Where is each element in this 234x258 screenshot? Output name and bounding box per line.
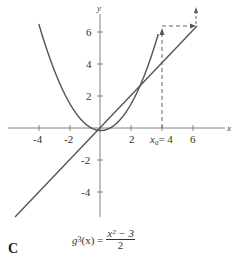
x-axis-label: x: [226, 123, 231, 133]
formula-arg: (x) =: [82, 234, 104, 246]
x-tick-label: 2: [129, 133, 135, 145]
x-tick-label: -4: [33, 133, 43, 145]
x-tick-label: 6: [190, 133, 196, 145]
y-tick-label: 6: [86, 26, 92, 38]
y-tick-label: 2: [86, 90, 92, 102]
parabola-curve: [39, 24, 159, 131]
arrowhead-up-icon: [160, 28, 165, 35]
function-formula: g3(x) = x² − 3 2: [72, 228, 135, 251]
panel-label: C: [8, 241, 18, 257]
y-tick-label: 4: [86, 58, 92, 70]
x-tick-label: -2: [64, 133, 73, 145]
arrowhead-up-icon: [194, 7, 198, 13]
x0-label: x0= 4: [149, 133, 173, 147]
function-iteration-figure: -4 -2 2 x0= 4 6 6 4 2 -2 -4 x y: [0, 0, 234, 258]
y-tick-label: -4: [81, 186, 91, 198]
y-tick-label: -2: [81, 154, 90, 166]
formula-denominator: 2: [118, 240, 124, 251]
formula-fraction: x² − 3 2: [106, 228, 135, 251]
y-axis-label: y: [96, 3, 101, 13]
identity-line: [15, 26, 197, 217]
